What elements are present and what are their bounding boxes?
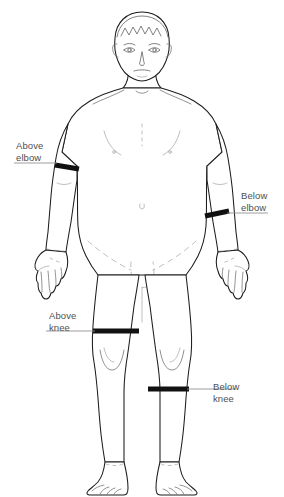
leg-right-outline (145, 275, 192, 462)
face-outline (115, 12, 170, 81)
hand-left-outline (35, 250, 68, 299)
human-figure-illustration (0, 0, 284, 497)
callout-label-below-elbow: Below elbow (241, 190, 267, 213)
legs-group (87, 275, 197, 495)
torso-group (52, 88, 232, 288)
callout-label-above-knee: Above knee (49, 310, 76, 333)
amputation-levels-diagram: Above elbow Below elbow Above knee Below… (0, 0, 284, 497)
hand-right-outline (217, 250, 250, 299)
head-group (113, 12, 172, 88)
leg-left-outline (92, 275, 139, 462)
callout-label-below-knee: Below knee (213, 381, 239, 404)
callout-label-above-elbow: Above elbow (16, 140, 43, 163)
torso-outline (52, 88, 232, 275)
